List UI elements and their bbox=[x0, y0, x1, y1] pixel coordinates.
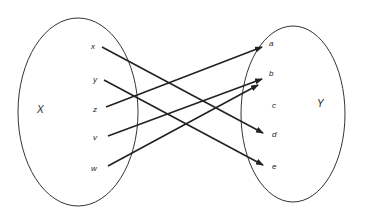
element-z-label: z bbox=[92, 105, 97, 114]
arrow-y-to-e bbox=[104, 80, 263, 165]
element-x-label: x bbox=[90, 42, 96, 51]
arrow-x-to-d bbox=[102, 47, 263, 133]
element-b-label: b bbox=[269, 69, 274, 78]
set-y-ellipse bbox=[241, 26, 345, 202]
arrow-z-to-a bbox=[106, 47, 262, 107]
element-c-label: c bbox=[272, 101, 276, 110]
element-d-label: d bbox=[272, 130, 277, 139]
element-a-label: a bbox=[269, 39, 274, 48]
element-y-label: y bbox=[92, 75, 98, 84]
set-y-label: Y bbox=[317, 98, 325, 109]
set-x-ellipse bbox=[18, 18, 138, 206]
element-w-label: w bbox=[91, 164, 98, 173]
element-v-label: v bbox=[93, 133, 98, 142]
mapping-diagram: X Y x y z v w a b c d e bbox=[0, 0, 365, 220]
set-x-label: X bbox=[36, 104, 44, 115]
element-e-label: e bbox=[272, 162, 277, 171]
arrow-v-to-b bbox=[108, 79, 262, 136]
